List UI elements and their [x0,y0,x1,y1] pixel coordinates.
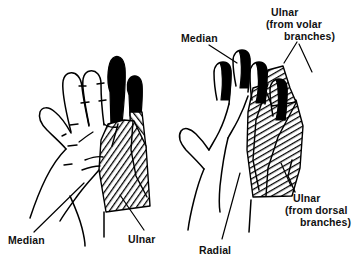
right-ulnar-dorsal-label-line2: (from dorsal [285,204,347,216]
left-median-label: Median [8,234,45,246]
left-ring-finger-shade [108,56,125,126]
left-ulnar-label: Ulnar [128,233,155,245]
right-ulnar-dorsal-label-line1: Ulnar [293,192,320,204]
right-ulnar-volar-label-line1: Ulnar [271,6,298,18]
right-ulnar-dorsal-label-line3: branches) [300,216,351,228]
right-radial-label: Radial [199,244,231,256]
right-median-label: Median [181,32,218,44]
right-ulnar-volar-label-line3: branches) [284,30,335,42]
hand-nerve-distribution-figure: Median Ulnar Median [0,0,359,278]
right-ulnar-volar-label-line2: (from volar [266,18,322,30]
left-little-finger-shade [127,76,142,116]
